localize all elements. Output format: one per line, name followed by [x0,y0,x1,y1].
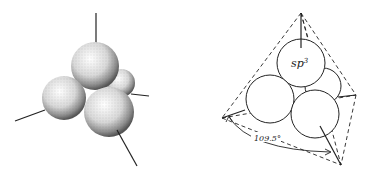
orbital-sphere-left [42,76,86,120]
orbital-circle-front [291,90,339,138]
bond-axis-left [15,110,45,121]
bond-axis-bottom [117,130,137,166]
angle-label: 109.5° [254,134,281,143]
stippled-orbital-model [15,13,149,166]
figure-canvas: 109.5° sp3 [0,0,367,180]
tetrahedron-diagram [222,13,356,165]
orbital-circle-left [246,75,294,123]
orbital-sphere-front [84,87,134,137]
sp3-tetrahedral-figure: 109.5° sp3 [0,0,367,180]
bond-axis-right [131,94,149,96]
